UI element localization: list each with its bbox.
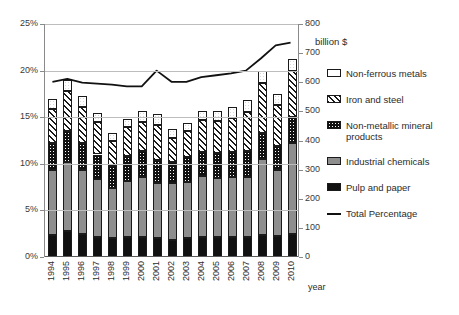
bar-segment: [123, 237, 131, 257]
bar-segment: [273, 146, 281, 170]
legend-item: Pulp and paper: [327, 182, 459, 194]
bar-segment: [168, 138, 176, 162]
bar-segment: [273, 105, 281, 146]
gridline: [45, 210, 298, 211]
bar-segment: [78, 107, 86, 143]
bar-column: [288, 24, 296, 257]
left-axis-tickmark: [40, 117, 44, 118]
bar-segment: [198, 176, 206, 238]
stacked-bar-chart: billion $ 0%5%10%15%20%25% 0100200300400…: [0, 0, 459, 315]
x-axis-tick-label: 1994: [47, 261, 56, 281]
bar-column: [273, 24, 281, 257]
x-axis-baseline: [45, 256, 298, 257]
chart-legend: Non-ferrous metalsIron and steelNon-meta…: [327, 68, 459, 234]
bar-segment: [243, 177, 251, 237]
bar-column: [108, 24, 116, 257]
bar-column: [93, 24, 101, 257]
legend-item: Non-metallic mineral products: [327, 120, 459, 142]
right-axis-tick-label: 0: [305, 252, 310, 261]
bar-segment: [258, 235, 266, 257]
bar-segment: [288, 117, 296, 143]
bar-column: [243, 24, 251, 257]
bar-segment: [168, 183, 176, 240]
right-axis-tickmark: [299, 141, 303, 142]
bar-segment: [228, 177, 236, 237]
bar-segment: [123, 119, 131, 127]
bar-segment: [288, 71, 296, 118]
bar-segment: [63, 91, 71, 131]
bar-segment: [138, 122, 146, 151]
bar-segment: [123, 156, 131, 180]
bar-column: [183, 24, 191, 257]
bar-segment: [93, 155, 101, 179]
bar-segment: [258, 133, 266, 159]
bar-column: [213, 24, 221, 257]
bar-segment: [48, 143, 56, 170]
gridline: [45, 117, 298, 118]
left-axis-tickmark: [40, 257, 44, 258]
bar-segment: [198, 237, 206, 257]
bar-segment: [93, 237, 101, 258]
bar-segment: [63, 131, 71, 162]
bar-segment: [213, 178, 221, 237]
bar-segment: [48, 170, 56, 234]
bar-segment: [213, 237, 221, 258]
bar-segment: [183, 238, 191, 257]
legend-label: Total Percentage: [346, 208, 459, 219]
bar-segment: [243, 100, 251, 111]
left-axis-tick-label: 10%: [0, 159, 38, 168]
bar-segment: [273, 94, 281, 105]
right-axis-tick-label: 700: [305, 48, 320, 57]
x-axis-tick-label: 2005: [212, 261, 221, 281]
bar-segment: [288, 59, 296, 70]
x-axis-tick-label: 1999: [122, 261, 131, 281]
right-axis-unit-title: billion $: [315, 36, 347, 47]
x-axis-tick-label: 2002: [167, 261, 176, 281]
legend-swatch-black-dotted: [327, 121, 341, 129]
bar-segment: [48, 99, 56, 109]
right-axis-tick-label: 300: [305, 165, 320, 174]
gridline: [45, 24, 298, 25]
bar-column: [153, 24, 161, 257]
x-axis-tick-label: 2004: [197, 261, 206, 281]
bar-segment: [183, 157, 191, 181]
bar-segment: [63, 162, 71, 231]
right-axis-tick-label: 100: [305, 223, 320, 232]
bar-segment: [258, 83, 266, 133]
left-axis-tick-label: 0%: [0, 252, 38, 261]
bar-column: [228, 24, 236, 257]
right-axis-tick-label: 800: [305, 19, 320, 28]
x-axis-tick-label: 2006: [227, 261, 236, 281]
bar-segment: [258, 159, 266, 234]
plot-area: [44, 24, 299, 257]
right-axis-tickmark: [299, 82, 303, 83]
gridline: [45, 164, 298, 165]
bar-segment: [228, 118, 236, 152]
right-axis-tickmark: [299, 53, 303, 54]
bar-segment: [108, 141, 116, 166]
right-axis-tickmark: [299, 24, 303, 25]
bar-column: [168, 24, 176, 257]
bar-segment: [63, 80, 71, 91]
bar-segment: [168, 240, 176, 257]
bar-column: [48, 24, 56, 257]
bar-segment: [288, 234, 296, 257]
legend-item: Iron and steel: [327, 94, 459, 106]
bar-column: [78, 24, 86, 257]
left-axis-tick-label: 15%: [0, 112, 38, 121]
x-axis-tick-label: 2001: [152, 261, 161, 281]
bar-segment: [93, 179, 101, 237]
bar-segment: [183, 131, 191, 157]
bar-segment: [213, 111, 221, 121]
right-axis-tickmark: [299, 228, 303, 229]
left-axis-tickmark: [40, 164, 44, 165]
bar-series-container: [45, 24, 298, 257]
left-axis-tickmark: [40, 71, 44, 72]
bar-segment: [48, 235, 56, 257]
bar-segment: [78, 170, 86, 233]
bar-segment: [108, 238, 116, 257]
bar-segment: [78, 234, 86, 257]
left-axis-tickmark: [40, 24, 44, 25]
legend-item: Industrial chemicals: [327, 156, 459, 168]
bar-segment: [273, 236, 281, 257]
